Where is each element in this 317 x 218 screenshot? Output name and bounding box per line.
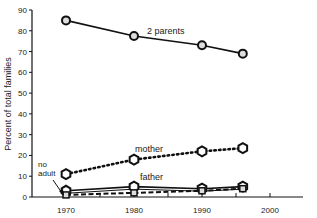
- y-tick-label: 10: [18, 172, 27, 181]
- y-tick-label: 50: [18, 89, 27, 98]
- y-tick-label: 30: [18, 131, 27, 140]
- series-group: [62, 16, 247, 198]
- data-marker: [130, 155, 139, 165]
- label-no-adult-line1: no: [38, 160, 47, 169]
- label-2-parents: 2 parents: [147, 26, 185, 36]
- x-tick-label: 1990: [193, 206, 211, 215]
- data-marker: [131, 190, 137, 196]
- data-marker: [130, 32, 138, 40]
- data-marker: [199, 188, 205, 194]
- y-axis-label: Percent of total families: [3, 57, 13, 151]
- x-tick-label: 1970: [57, 206, 75, 215]
- y-tick-label: 0: [23, 193, 28, 202]
- axes: 01020304050607080901970198019902000: [18, 6, 303, 215]
- data-marker: [198, 146, 207, 156]
- x-tick-label: 1980: [125, 206, 143, 215]
- data-marker: [239, 50, 247, 58]
- y-tick-label: 80: [18, 27, 27, 36]
- y-tick-label: 60: [18, 68, 27, 77]
- data-marker: [198, 41, 206, 49]
- y-tick-label: 40: [18, 110, 27, 119]
- y-tick-label: 90: [18, 6, 27, 15]
- data-marker: [240, 186, 246, 192]
- data-marker: [62, 16, 70, 24]
- data-marker: [238, 143, 247, 153]
- x-tick-label: 2000: [261, 206, 279, 215]
- y-tick-label: 70: [18, 48, 27, 57]
- series-2-parents: [62, 16, 247, 57]
- label-no-adult-line2: adult: [38, 169, 56, 178]
- label-mother: mother: [135, 144, 163, 154]
- label-father: father: [140, 172, 163, 182]
- y-tick-label: 20: [18, 151, 27, 160]
- line-chart: 01020304050607080901970198019902000 Perc…: [0, 0, 317, 218]
- data-marker: [62, 169, 71, 179]
- data-marker: [63, 192, 69, 198]
